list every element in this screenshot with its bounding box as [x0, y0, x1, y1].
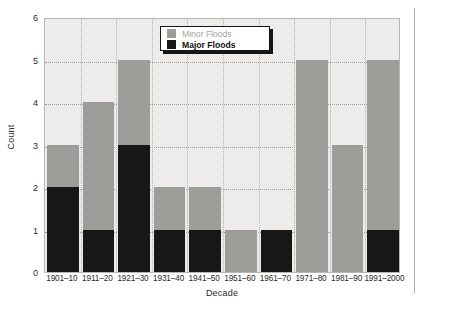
x-tick-1921–30: 1921–30 — [115, 274, 151, 283]
bar-segment-minor[interactable] — [154, 187, 186, 230]
bar-segment-major[interactable] — [118, 145, 150, 273]
y-tick-2: 2 — [22, 183, 38, 193]
page-margin-rule — [414, 8, 415, 293]
bar-segment-minor[interactable] — [332, 145, 364, 273]
x-tick-1941–50: 1941–50 — [186, 274, 222, 283]
x-tick-1981–90: 1981–90 — [329, 274, 365, 283]
bar-segment-major[interactable] — [154, 230, 186, 273]
bar-segment-minor[interactable] — [367, 60, 399, 230]
bar-group[interactable] — [332, 145, 364, 273]
legend-item-major-floods: Major Floods — [167, 39, 235, 50]
y-tick-6: 6 — [22, 13, 38, 23]
y-tick-5: 5 — [22, 56, 38, 66]
bar-segment-minor[interactable] — [189, 187, 221, 230]
y-axis-tick-labels: 0123456 — [22, 0, 38, 311]
bar-group[interactable] — [225, 230, 257, 273]
bar-segment-major[interactable] — [83, 230, 115, 273]
bar-series-container — [45, 19, 399, 272]
bar-group[interactable] — [296, 60, 328, 273]
bar-group[interactable] — [261, 230, 293, 273]
x-tick-1911–20: 1911–20 — [80, 274, 116, 283]
x-tick-1971–80: 1971–80 — [293, 274, 329, 283]
y-tick-4: 4 — [22, 98, 38, 108]
x-axis-tick-labels: 1901–101911–201921–301931–401941–501951–… — [44, 274, 400, 288]
y-tick-1: 1 — [22, 226, 38, 236]
bar-segment-major[interactable] — [189, 230, 221, 273]
legend-swatch-major-icon — [167, 40, 176, 49]
x-tick-1991–2000: 1991–2000 — [364, 274, 400, 283]
legend-label-minor: Minor Floods — [182, 29, 232, 39]
y-tick-3: 3 — [22, 141, 38, 151]
x-tick-1931–40: 1931–40 — [151, 274, 187, 283]
legend-item-minor-floods: Minor Floods — [167, 28, 232, 39]
x-tick-1951–60: 1951–60 — [222, 274, 258, 283]
bar-group[interactable] — [189, 187, 221, 272]
flood-count-bar-chart: Count 0123456 1901–101911–201921–301931–… — [0, 0, 451, 311]
bar-segment-major[interactable] — [367, 230, 399, 273]
bar-segment-minor[interactable] — [118, 60, 150, 145]
x-axis-label: Decade — [44, 288, 400, 298]
bar-segment-minor[interactable] — [225, 230, 257, 273]
x-tick-1901–10: 1901–10 — [44, 274, 80, 283]
legend-label-major: Major Floods — [182, 40, 235, 50]
bar-group[interactable] — [83, 102, 115, 272]
plot-area — [44, 18, 400, 273]
bar-segment-minor[interactable] — [47, 145, 79, 188]
bar-segment-major[interactable] — [47, 187, 79, 272]
chart-legend: Minor Floods Major Floods — [160, 26, 270, 51]
bar-group[interactable] — [367, 60, 399, 273]
y-axis-label: Count — [6, 107, 16, 167]
y-tick-0: 0 — [22, 268, 38, 278]
legend-swatch-minor-icon — [167, 29, 176, 38]
bar-segment-major[interactable] — [261, 230, 293, 273]
x-tick-1961–70: 1961–70 — [258, 274, 294, 283]
bar-group[interactable] — [118, 60, 150, 273]
bar-group[interactable] — [47, 145, 79, 273]
bar-segment-minor[interactable] — [83, 102, 115, 230]
bar-segment-minor[interactable] — [296, 60, 328, 273]
bar-group[interactable] — [154, 187, 186, 272]
